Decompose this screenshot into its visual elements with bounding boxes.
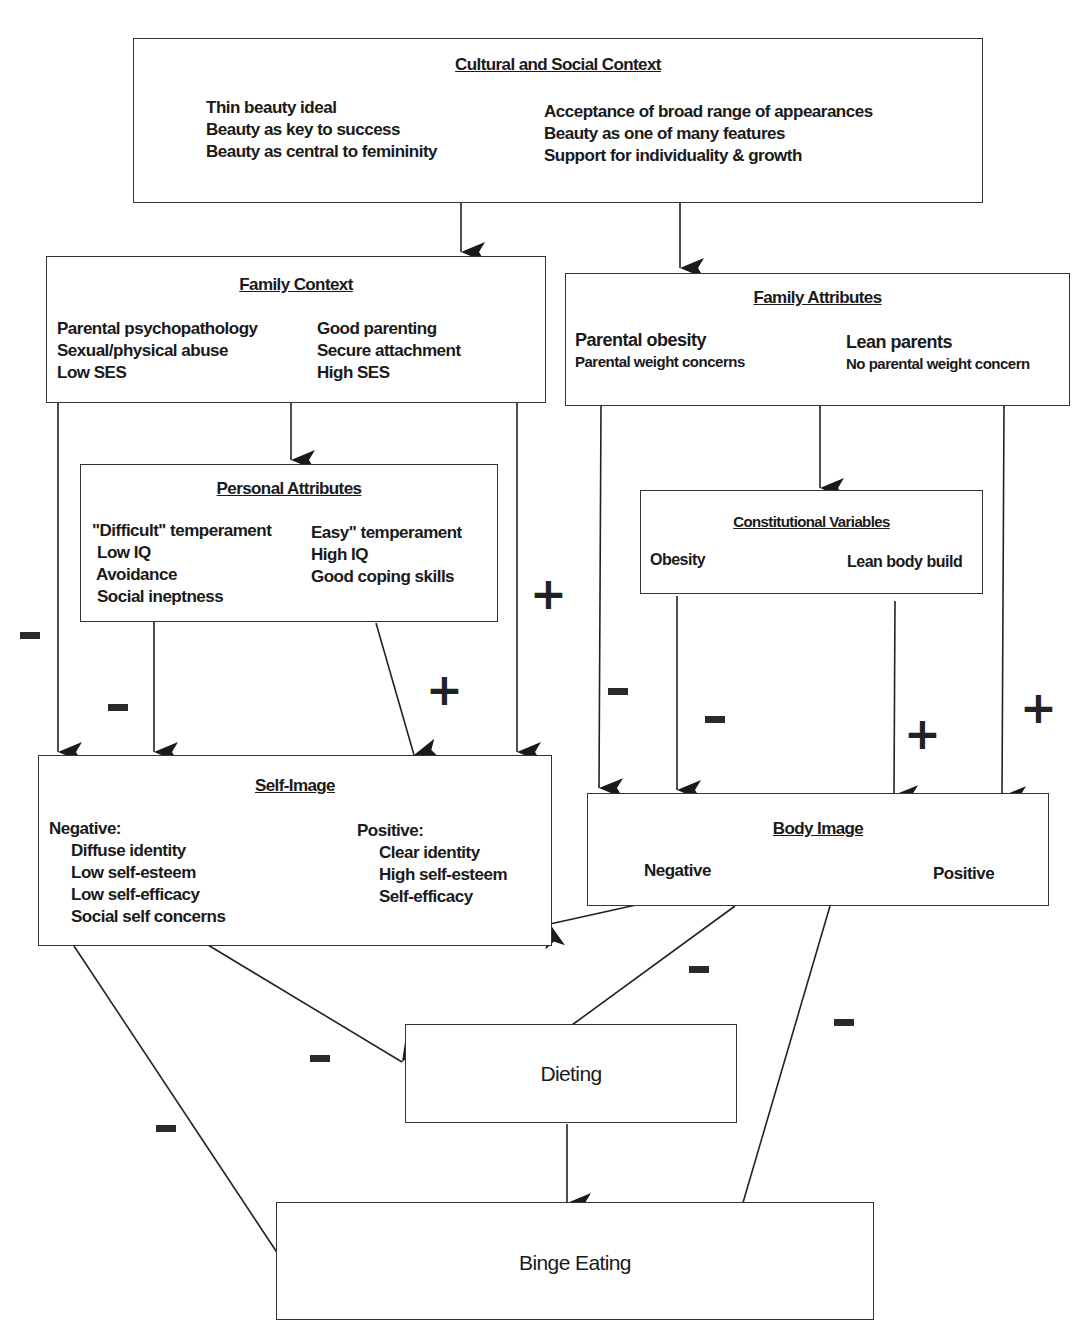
node-family-attributes: Family Attributes Parental obesity Paren… — [565, 273, 1070, 406]
factor: Lean parents — [846, 331, 1030, 353]
factor: Self-efficacy — [357, 886, 507, 908]
family-context-negative-factors: Parental psychopathology Sexual/physical… — [57, 318, 258, 384]
node-body-image: Body Image Negative Positive — [587, 793, 1049, 906]
node-dieting: Dieting — [405, 1024, 737, 1123]
body-image-positive: Positive — [933, 863, 994, 885]
minus-sign-body-to-binge — [834, 1019, 854, 1026]
minus-sign-body-to-dieting — [689, 966, 709, 973]
factor: Negative — [644, 860, 711, 882]
factor: Clear identity — [357, 842, 507, 864]
factor: High IQ — [311, 544, 462, 566]
node-title: Family Attributes — [566, 288, 1069, 308]
factor: Beauty as central to femininity — [206, 141, 437, 163]
personal-positive-factors: Easy" temperament High IQ Good coping sk… — [311, 522, 462, 588]
minus-sign-fa-left — [608, 688, 628, 695]
factor: Social ineptness — [92, 586, 271, 608]
node-title: Family Context — [47, 275, 545, 295]
factor: Low self-efficacy — [49, 884, 225, 906]
factor: Obesity — [650, 549, 705, 571]
body-image-negative: Negative — [644, 860, 711, 882]
node-personal-attributes: Personal Attributes "Difficult" temperam… — [80, 464, 498, 622]
factor: Good parenting — [317, 318, 461, 340]
factor: Support for individuality & growth — [544, 145, 873, 167]
factor: Low self-esteem — [49, 862, 225, 884]
node-title: Self-Image — [39, 776, 551, 796]
factor: Acceptance of broad range of appearances — [544, 101, 873, 123]
factor: Secure attachment — [317, 340, 461, 362]
cultural-positive-factors: Acceptance of broad range of appearances… — [544, 101, 873, 167]
factor-header: Negative: — [49, 818, 225, 840]
factor: Sexual/physical abuse — [57, 340, 258, 362]
factor: Parental obesity — [575, 329, 745, 351]
factor: Positive — [933, 863, 994, 885]
factor: High SES — [317, 362, 461, 384]
personal-negative-factors: "Difficult" temperament Low IQ Avoidance… — [92, 520, 271, 608]
node-cultural-social-context: Cultural and Social Context Thin beauty … — [133, 38, 983, 203]
factor: Diffuse identity — [49, 840, 225, 862]
factor: Thin beauty ideal — [206, 97, 437, 119]
minus-sign-self-to-binge — [156, 1125, 176, 1132]
minus-sign-pa-left — [108, 704, 128, 711]
constitutional-positive-factor: Lean body build — [847, 551, 962, 573]
factor: Easy" temperament — [311, 522, 462, 544]
minus-sign-cv-left — [705, 716, 725, 723]
plus-sign-fa-right: + — [1020, 686, 1057, 730]
factor: Low SES — [57, 362, 258, 384]
family-context-positive-factors: Good parenting Secure attachment High SE… — [317, 318, 461, 384]
minus-sign-self-to-dieting — [310, 1055, 330, 1062]
factor: High self-esteem — [357, 864, 507, 886]
factor: Lean body build — [847, 551, 962, 573]
factor: Beauty as key to success — [206, 119, 437, 141]
factor: No parental weight concern — [846, 353, 1030, 375]
node-constitutional-variables: Constitutional Variables Obesity Lean bo… — [640, 490, 983, 594]
family-attributes-positive-factors: Lean parents No parental weight concern — [846, 331, 1030, 375]
plus-sign-pa-right: + — [426, 668, 463, 712]
node-label: Dieting — [406, 1062, 736, 1086]
factor: Good coping skills — [311, 566, 462, 588]
factor: Parental weight concerns — [575, 351, 745, 373]
node-title: Body Image — [588, 819, 1048, 839]
factor: Beauty as one of many features — [544, 123, 873, 145]
node-title: Cultural and Social Context — [134, 55, 982, 75]
family-attributes-negative-factors: Parental obesity Parental weight concern… — [575, 329, 745, 373]
factor: "Difficult" temperament — [92, 520, 271, 542]
plus-sign-cv-right: + — [904, 712, 941, 756]
node-family-context: Family Context Parental psychopathology … — [46, 256, 546, 403]
node-title: Personal Attributes — [81, 479, 497, 499]
factor-header: Positive: — [357, 820, 507, 842]
node-binge-eating: Binge Eating — [276, 1202, 874, 1320]
self-image-negative-factors: Negative: Diffuse identity Low self-este… — [49, 818, 225, 928]
self-image-positive-factors: Positive: Clear identity High self-estee… — [357, 820, 507, 908]
factor: Parental psychopathology — [57, 318, 258, 340]
factor: Social self concerns — [49, 906, 225, 928]
plus-sign-fc-right: + — [530, 572, 567, 616]
node-title: Constitutional Variables — [641, 513, 982, 530]
factor: Avoidance — [92, 564, 271, 586]
factor: Low IQ — [92, 542, 271, 564]
cultural-negative-factors: Thin beauty ideal Beauty as key to succe… — [206, 97, 437, 163]
constitutional-negative-factor: Obesity — [650, 549, 705, 571]
node-self-image: Self-Image Negative: Diffuse identity Lo… — [38, 755, 552, 946]
minus-sign-fc-left — [20, 632, 40, 639]
node-label: Binge Eating — [277, 1251, 873, 1275]
